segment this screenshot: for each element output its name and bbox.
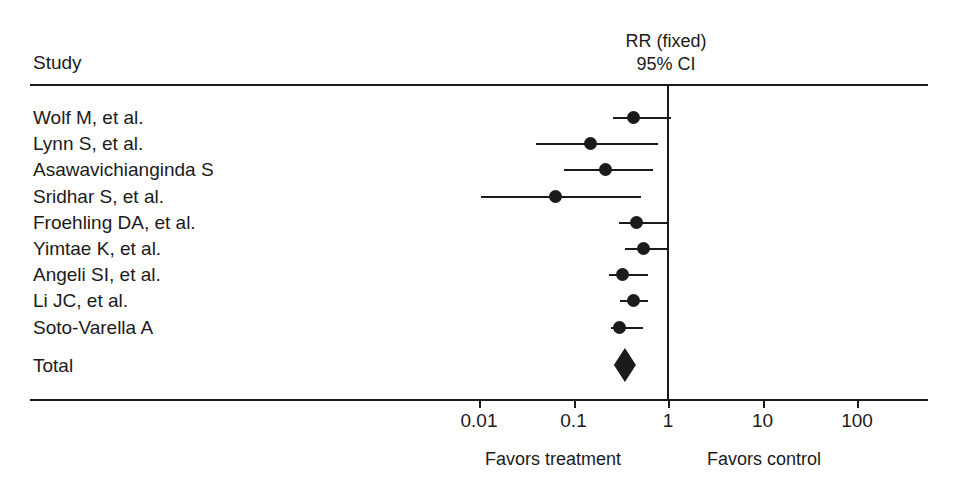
point-estimate-marker: [630, 216, 643, 229]
total-label: Total: [33, 356, 73, 375]
axis-tick-label: 100: [841, 410, 873, 431]
no-effect-reference-line: [667, 86, 669, 399]
study-label: Sridhar S, et al.: [33, 187, 164, 206]
point-estimate-marker: [627, 111, 640, 124]
confidence-interval-whisker: [619, 222, 670, 224]
point-estimate-marker: [613, 321, 626, 334]
axis-tick-label: 0.1: [560, 410, 586, 431]
axis-tick: [479, 399, 481, 408]
point-estimate-marker: [637, 242, 650, 255]
point-estimate-marker: [549, 190, 562, 203]
axis-tick-label: 10: [752, 410, 773, 431]
confidence-interval-label: 95% CI: [576, 53, 756, 76]
point-estimate-marker: [599, 163, 612, 176]
point-estimate-marker: [616, 268, 629, 281]
summary-diamond: [614, 348, 636, 382]
study-column-header: Study: [33, 52, 82, 74]
effect-measure-label: RR (fixed): [576, 30, 756, 53]
axis-tick: [574, 399, 576, 408]
point-estimate-marker: [627, 294, 640, 307]
study-label: Asawavichianginda S: [33, 160, 214, 179]
favors-treatment-label: Favors treatment: [485, 449, 621, 469]
confidence-interval-whisker: [613, 117, 671, 119]
point-estimate-marker: [584, 137, 597, 150]
header-divider-rule: [30, 84, 928, 86]
confidence-interval-whisker: [536, 143, 658, 145]
study-label: Froehling DA, et al.: [33, 213, 196, 232]
effect-column-header: RR (fixed) 95% CI: [576, 30, 756, 76]
axis-tick: [763, 399, 765, 408]
axis-tick-label: 0.01: [461, 410, 498, 431]
study-label: Li JC, et al.: [33, 291, 128, 310]
favors-control-label: Favors control: [707, 449, 821, 469]
study-label: Angeli SI, et al.: [33, 265, 161, 284]
study-label: Soto-Varella A: [33, 318, 153, 337]
study-label: Lynn S, et al.: [33, 134, 143, 153]
forest-plot: Study RR (fixed) 95% CI Wolf M, et al.Ly…: [0, 0, 958, 486]
study-label: Wolf M, et al.: [33, 108, 144, 127]
axis-tick: [668, 399, 670, 408]
study-label: Yimtae K, et al.: [33, 239, 161, 258]
axis-tick-label: 1: [663, 410, 674, 431]
axis-tick: [857, 399, 859, 408]
